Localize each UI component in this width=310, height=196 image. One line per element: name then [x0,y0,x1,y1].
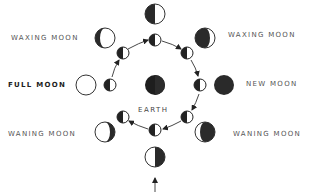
inner-moon-top-right-icon [181,47,193,59]
moon-phases-diagram: WAXING MOON WAXING MOON FULL MOON NEW MO… [0,0,310,196]
inner-moon-right-icon [194,79,206,91]
moon-phase-top-right-icon [195,28,215,48]
label-earth: EARTH [138,106,169,114]
moon-phase-bottom-icon [145,147,165,167]
inner-moon-bottom-icon [149,124,161,136]
earth-icon [145,75,165,95]
moon-phase-top-icon [145,4,165,24]
moon-phase-full-icon [76,75,96,95]
inner-moon-bottom-right-icon [181,111,193,123]
inner-moon-top-icon [149,34,161,46]
moon-phase-bottom-right-icon [195,122,215,142]
label-waxing-moon-left: WAXING MOON [11,34,79,42]
label-waxing-moon-right: WAXING MOON [228,31,296,39]
moon-phase-bottom-left-icon [95,122,115,142]
diagram-graphics [0,0,310,196]
label-waning-moon-right: WANING MOON [233,130,301,138]
inner-moon-left-icon [104,79,116,91]
inner-moon-top-left-icon [117,47,129,59]
label-waning-moon-left: WANING MOON [8,130,76,138]
label-new-moon: NEW MOON [246,80,298,88]
label-full-moon: FULL MOON [8,81,66,89]
inner-moon-bottom-left-icon [117,111,129,123]
moon-phase-new-icon [214,75,234,95]
moon-phase-top-left-icon [95,28,115,48]
